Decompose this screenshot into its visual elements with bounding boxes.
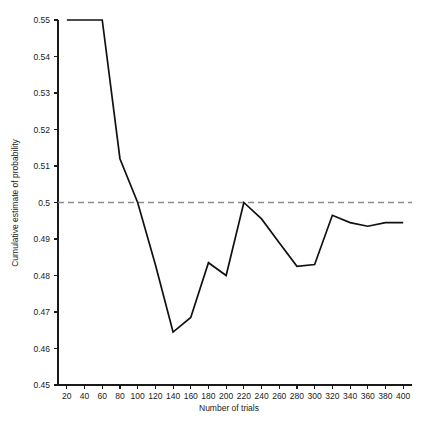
y-tick-label: 0.53 [33, 88, 50, 98]
x-tick-label: 40 [80, 391, 90, 401]
x-tick-label: 200 [219, 391, 233, 401]
y-tick-label: 0.52 [33, 125, 50, 135]
x-axis-title: Number of trials [199, 403, 259, 413]
x-axis: 2040608010012014016018020022024026028030… [58, 385, 412, 401]
y-tick-label: 0.5 [38, 198, 50, 208]
x-tick-label: 20 [62, 391, 72, 401]
y-axis-title: Cumulative estimate of probability [10, 138, 20, 266]
x-tick-label: 340 [343, 391, 357, 401]
y-axis: 0.450.460.470.480.490.50.510.520.530.540… [33, 15, 58, 390]
x-tick-label: 320 [325, 391, 339, 401]
x-tick-label: 400 [396, 391, 410, 401]
x-tick-label: 80 [115, 391, 125, 401]
x-tick-label: 240 [254, 391, 268, 401]
y-tick-label: 0.46 [33, 344, 50, 354]
x-tick-label: 280 [290, 391, 304, 401]
x-tick-label: 220 [237, 391, 251, 401]
x-tick-label: 100 [131, 391, 145, 401]
y-tick-label: 0.55 [33, 15, 50, 25]
x-tick-label: 140 [166, 391, 180, 401]
line-chart: 0.450.460.470.480.490.50.510.520.530.540… [0, 0, 441, 427]
x-tick-label: 180 [201, 391, 215, 401]
x-tick-label: 160 [184, 391, 198, 401]
chart-container: 0.450.460.470.480.490.50.510.520.530.540… [0, 0, 441, 427]
y-tick-label: 0.48 [33, 271, 50, 281]
y-tick-label: 0.49 [33, 234, 50, 244]
y-tick-label: 0.51 [33, 161, 50, 171]
x-tick-label: 60 [98, 391, 108, 401]
y-tick-label: 0.54 [33, 52, 50, 62]
x-tick-label: 360 [361, 391, 375, 401]
x-tick-label: 300 [308, 391, 322, 401]
x-tick-label: 380 [378, 391, 392, 401]
y-tick-label: 0.47 [33, 307, 50, 317]
data-series-group [67, 20, 403, 332]
data-series-line [67, 20, 403, 332]
x-tick-label: 260 [272, 391, 286, 401]
y-tick-label: 0.45 [33, 380, 50, 390]
x-tick-label: 120 [148, 391, 162, 401]
